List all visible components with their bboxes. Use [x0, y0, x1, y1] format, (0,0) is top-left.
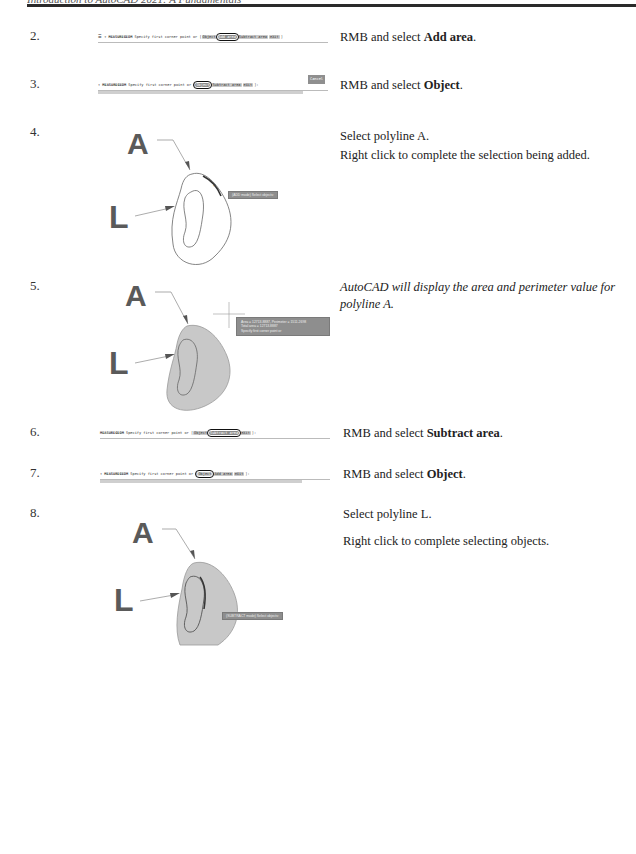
polyline-figure-filled: A L [95, 278, 305, 418]
option-object[interactable]: Object [202, 35, 217, 39]
label-l: L [109, 199, 129, 235]
step-number: 4. [30, 124, 40, 140]
instruction-bold: Object [427, 467, 463, 481]
step-number: 5. [30, 278, 40, 294]
instruction-end: . [500, 426, 503, 440]
instruction-line: Select polyline L. [343, 506, 623, 523]
command-keyword: MEASUREGEOM [100, 431, 124, 435]
instruction-bold: Subtract area [427, 426, 500, 440]
header-rule [27, 4, 636, 7]
command-line: ▾ MEASUREGEOM Specify first corner point… [100, 470, 330, 480]
command-prompt: Specify first corner point or [ [128, 83, 195, 87]
command-prefix-icon: ☰ ▾ [98, 35, 106, 39]
instruction-text: RMB and select [343, 467, 427, 481]
step-number: 3. [30, 76, 40, 92]
instruction-text: RMB and select [340, 30, 424, 44]
option-subtract-area[interactable]: Subtract area [211, 83, 241, 87]
polyline-figure-subtract: A L [100, 511, 310, 651]
option-object[interactable]: Object [195, 83, 210, 87]
instruction-line: Right click to complete the selection be… [340, 147, 620, 164]
command-prefix-icon: ▾ [98, 83, 100, 87]
step-number: 2. [30, 28, 40, 44]
step-instruction: Select polyline A. Right click to comple… [340, 128, 620, 166]
instruction-end: . [460, 78, 463, 92]
command-suffix: ]: [252, 431, 256, 435]
step-number: 6. [30, 424, 40, 440]
label-a: A [125, 279, 147, 312]
step-instruction: RMB and select Add area. [340, 29, 620, 46]
command-prefix-icon: ▾ [100, 472, 102, 476]
area-result-tooltip: Area = 12713.8887, Perimeter = 1511.2698… [236, 317, 330, 336]
option-add-area[interactable]: Add area [218, 35, 237, 39]
option-subtract-area[interactable]: Subtract area [209, 431, 239, 435]
step-instruction: Select polyline L. Right click to comple… [343, 506, 623, 552]
command-scroll-bar [98, 91, 303, 94]
command-prompt: Specify first corner point or [ [130, 472, 197, 476]
select-objects-tooltip: (SUBTRACT mode) Select objects: [222, 612, 283, 620]
instruction-text: RMB and select [343, 426, 427, 440]
option-exit[interactable]: eXit [240, 431, 251, 435]
step-instruction: RMB and select Object. [343, 466, 623, 483]
command-keyword: MEASUREGEOM [102, 83, 126, 87]
option-subtract-area[interactable]: Subtract area [238, 35, 268, 39]
instruction-line: AutoCAD will display the area and perime… [340, 279, 620, 313]
step-number: 7. [30, 465, 40, 481]
command-suffix: ] [281, 35, 283, 39]
command-line: ☰ ▾ MEASUREGEOM Specify first corner poi… [98, 33, 328, 43]
instruction-end: . [463, 467, 466, 481]
command-keyword: MEASUREGEOM [104, 472, 128, 476]
command-suffix: ]: [254, 83, 258, 87]
option-add-area[interactable]: Add area [213, 472, 232, 476]
step-instruction: AutoCAD will display the area and perime… [340, 279, 620, 315]
cancel-badge[interactable]: Cancel [308, 75, 325, 84]
step-number: 8. [30, 505, 40, 521]
option-exit[interactable]: eXit [269, 35, 280, 39]
command-suffix: ]: [245, 472, 249, 476]
step-instruction: RMB and select Object. [340, 77, 620, 94]
label-l: L [114, 582, 134, 618]
instruction-line: Right click to complete selecting object… [343, 533, 623, 550]
command-prompt: Specify first corner point or [ [134, 35, 201, 39]
command-prompt: Specify first corner point or [ [126, 431, 193, 435]
command-keyword: MEASUREGEOM [109, 35, 133, 39]
option-object[interactable]: Object [197, 472, 212, 476]
option-exit[interactable]: eXit [234, 472, 245, 476]
step-instruction: RMB and select Subtract area. [343, 425, 623, 442]
next-prompt: Specify first corner point or [241, 329, 325, 333]
polyline-figure: A L ⌖ [95, 124, 305, 274]
option-object[interactable]: Object [193, 431, 208, 435]
instruction-end: . [473, 30, 476, 44]
instruction-bold: Object [424, 78, 460, 92]
svg-text:⌖: ⌖ [213, 182, 216, 188]
option-exit[interactable]: eXit [243, 83, 254, 87]
instruction-text: RMB and select [340, 78, 424, 92]
label-a: A [132, 516, 154, 549]
label-l: L [109, 345, 129, 381]
instruction-bold: Add area [424, 30, 473, 44]
instruction-line: Select polyline A. [340, 128, 620, 145]
command-line: Cancel ▾ MEASUREGEOM Specify first corne… [98, 81, 328, 91]
select-objects-tooltip: (ADD mode) Select objects: [228, 191, 278, 199]
command-line: MEASUREGEOM Specify first corner point o… [100, 429, 330, 439]
label-a: A [127, 127, 149, 160]
command-scroll-bar [100, 480, 302, 483]
